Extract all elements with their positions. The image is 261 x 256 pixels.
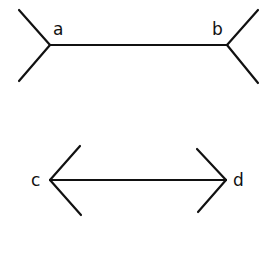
label-c: c — [31, 170, 40, 190]
fin-a-lower — [19, 45, 50, 81]
arrowhead-c-lower — [50, 180, 81, 215]
label-b: b — [212, 19, 223, 39]
fin-b-upper — [227, 10, 258, 45]
figure-top: a b — [19, 10, 258, 83]
fin-b-lower — [227, 45, 258, 83]
arrowhead-d-upper — [197, 149, 226, 180]
arrowhead-c-upper — [50, 146, 80, 180]
label-a: a — [53, 19, 63, 39]
figure-bottom: c d — [31, 146, 244, 215]
muller-lyer-diagram: a b c d — [0, 0, 261, 256]
fin-a-upper — [19, 10, 50, 45]
arrowhead-d-lower — [198, 180, 226, 212]
label-d: d — [233, 170, 244, 190]
